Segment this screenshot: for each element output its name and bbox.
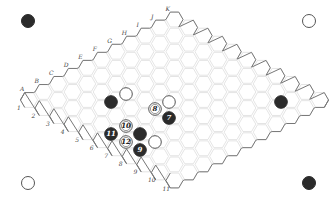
white-stone xyxy=(120,88,133,101)
row-label: 10 xyxy=(148,176,156,183)
hex-cell-J4[interactable] xyxy=(195,44,212,59)
hex-cell-I3[interactable] xyxy=(166,44,183,59)
hex-cell-I8[interactable] xyxy=(239,85,256,100)
black-stone xyxy=(134,128,147,141)
hex-cell-F8[interactable] xyxy=(195,109,212,124)
hex-cell-G7[interactable] xyxy=(195,93,212,108)
white-stone: 8 xyxy=(149,103,162,116)
hex-cell-I4[interactable] xyxy=(180,52,197,67)
hex-cell-I9[interactable] xyxy=(253,93,270,108)
hex-cell-H10[interactable] xyxy=(253,109,270,124)
hex-cell-H5[interactable] xyxy=(180,68,197,83)
row-label: 11 xyxy=(163,185,171,192)
move-number: 10 xyxy=(121,121,131,130)
hex-cell-D10[interactable] xyxy=(195,141,212,156)
row-label: 3 xyxy=(46,120,50,127)
hex-cell-H8[interactable] xyxy=(224,93,241,108)
hex-cell-H2[interactable] xyxy=(137,44,154,59)
move-number: 8 xyxy=(153,104,158,113)
hex-cell-G10[interactable] xyxy=(239,117,256,132)
hex-cell-I2[interactable] xyxy=(151,36,168,51)
hex-cell-E8[interactable] xyxy=(180,117,197,132)
black-stone xyxy=(105,96,118,109)
column-label: A xyxy=(19,85,25,92)
corner-marker-bottom-right xyxy=(303,177,316,190)
hex-cell-G9[interactable] xyxy=(224,109,241,124)
column-label: J xyxy=(149,13,154,21)
white-stone: 12 xyxy=(120,136,133,149)
hex-board[interactable]: ABCDEFGHIJK1234567891011871011129 xyxy=(0,0,335,204)
row-label: 4 xyxy=(60,128,65,135)
white-stone: 10 xyxy=(120,120,133,133)
hex-cell-C2[interactable] xyxy=(64,85,81,100)
column-label: B xyxy=(34,77,40,84)
hex-cell-D2[interactable] xyxy=(79,76,96,91)
hex-cell-G2[interactable] xyxy=(122,52,139,67)
move-number: 9 xyxy=(138,145,143,154)
move-number: 12 xyxy=(121,137,131,146)
column-label: F xyxy=(92,45,98,52)
row-label: 2 xyxy=(31,112,36,119)
hex-cell-F4[interactable] xyxy=(137,76,154,91)
hex-cell-F3[interactable] xyxy=(122,68,139,83)
black-stone xyxy=(275,96,288,109)
hex-cell-E2[interactable] xyxy=(93,68,110,83)
hex-cell-F2[interactable] xyxy=(108,60,125,75)
hex-cell-G4[interactable] xyxy=(151,68,168,83)
corner-marker-bottom-left xyxy=(22,177,35,190)
hex-cell-G3[interactable] xyxy=(137,60,154,75)
row-label: 1 xyxy=(17,104,21,111)
hex-cell-G5[interactable] xyxy=(166,76,183,91)
hex-cell-I6[interactable] xyxy=(210,68,227,83)
hex-cell-J7[interactable] xyxy=(239,68,256,83)
hex-cell-J5[interactable] xyxy=(210,52,227,67)
white-stone xyxy=(149,136,162,149)
hex-cell-F10[interactable] xyxy=(224,125,241,140)
hex-cell-C10[interactable] xyxy=(180,149,197,164)
hex-cell-J8[interactable] xyxy=(253,76,270,91)
black-stone: 9 xyxy=(134,144,147,157)
hex-cell-B10[interactable] xyxy=(166,157,183,172)
hex-cell-D9[interactable] xyxy=(180,133,197,148)
move-number: 11 xyxy=(106,129,116,138)
hex-cell-H3[interactable] xyxy=(151,52,168,67)
column-label: C xyxy=(49,69,54,76)
move-number: 7 xyxy=(167,113,172,122)
hex-cell-E9[interactable] xyxy=(195,125,212,140)
hex-cell-C3[interactable] xyxy=(79,93,96,108)
row-label: 6 xyxy=(90,144,94,151)
hex-cell-B9[interactable] xyxy=(151,149,168,164)
hex-cell-D5[interactable] xyxy=(122,101,139,116)
hex-cell-H6[interactable] xyxy=(195,76,212,91)
hex-cell-C9[interactable] xyxy=(166,141,183,156)
hex-cell-J3[interactable] xyxy=(180,36,197,51)
hex-cell-J2[interactable] xyxy=(166,28,183,43)
hex-cell-H7[interactable] xyxy=(210,85,227,100)
hex-cell-G8[interactable] xyxy=(210,101,227,116)
hex-cell-G6[interactable] xyxy=(180,85,197,100)
row-label: 9 xyxy=(133,168,137,175)
hex-cell-D8[interactable] xyxy=(166,125,183,140)
hex-cell-F7[interactable] xyxy=(180,101,197,116)
hex-cell-J6[interactable] xyxy=(224,60,241,75)
corner-marker-top-right xyxy=(303,15,316,28)
hex-cell-F9[interactable] xyxy=(210,117,227,132)
column-label: H xyxy=(121,29,128,36)
hex-cell-B3[interactable] xyxy=(64,101,81,116)
corner-marker-top-left xyxy=(22,15,35,28)
white-stone xyxy=(163,96,176,109)
hex-cell-B4[interactable] xyxy=(79,109,96,124)
column-label: D xyxy=(63,61,69,68)
black-stone: 11 xyxy=(105,128,118,141)
hex-cell-H4[interactable] xyxy=(166,60,183,75)
row-label: 7 xyxy=(104,152,108,159)
hex-cell-I7[interactable] xyxy=(224,76,241,91)
hex-cell-B2[interactable] xyxy=(50,93,67,108)
column-label: I xyxy=(135,21,139,28)
row-label: 8 xyxy=(119,160,123,167)
column-label: G xyxy=(107,37,112,44)
black-stone: 7 xyxy=(163,112,176,125)
hex-cell-E10[interactable] xyxy=(210,133,227,148)
hex-cell-I5[interactable] xyxy=(195,60,212,75)
hex-cell-H9[interactable] xyxy=(239,101,256,116)
